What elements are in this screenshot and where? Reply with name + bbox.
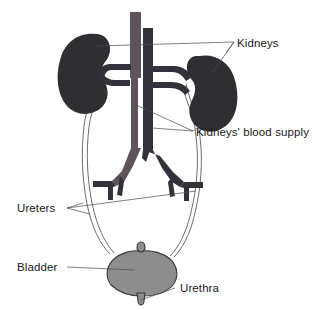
aorta-vessel [130,12,141,148]
urinary-system-diagram: Kidneys Kidneys' blood supply Ureters Bl… [0,0,330,310]
right-renal-vessels [153,66,192,95]
iliac-bifurcation [93,148,203,201]
left-renal-vessels [98,64,131,86]
label-urethra: Urethra [180,282,220,294]
vena-cava-vessel [143,28,153,150]
label-kidneys: Kidneys [237,37,279,49]
right-kidney [187,55,238,131]
label-bladder: Bladder [17,261,57,273]
diagram-canvas: Kidneys Kidneys' blood supply Ureters Bl… [0,0,330,310]
label-kidneys-blood-supply: Kidneys' blood supply [196,126,309,138]
label-ureters: Ureters [17,202,56,214]
